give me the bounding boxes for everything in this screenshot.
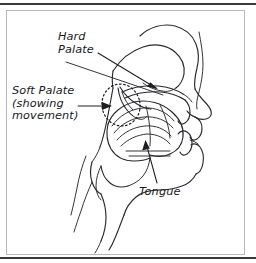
label-tongue: Tongue — [139, 186, 180, 199]
upper-lip — [190, 117, 202, 140]
vocal-tract-illustration — [0, 0, 256, 263]
neck — [95, 194, 124, 253]
tongue-arrowhead — [142, 140, 150, 151]
hard-palate-leader — [98, 53, 158, 89]
label-soft-palate: Soft Palate (showing movement) — [12, 85, 78, 123]
hard-palate-guide — [66, 62, 163, 95]
lower-lip — [191, 144, 203, 174]
label-hard-palate: Hard Palate — [58, 31, 94, 56]
larynx-region — [71, 156, 101, 232]
soft-palate-leader — [78, 102, 112, 110]
face-profile — [140, 25, 211, 119]
teeth — [178, 100, 192, 155]
figure-root: Hard Palate Soft Palate (showing movemen… — [0, 0, 256, 263]
tongue — [107, 101, 183, 161]
